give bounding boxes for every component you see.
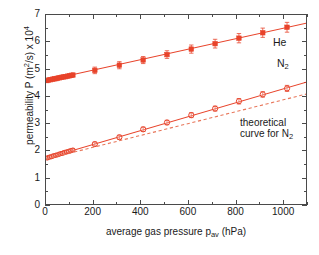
- x-axis-title: average gas pressure pav (hPa): [45, 226, 307, 237]
- x-tick-label-400: 400: [117, 207, 163, 217]
- x-axis-title-prefix: average gas pressure p: [106, 226, 211, 237]
- y-tick-label-1: 1: [0, 173, 40, 183]
- theoretical-annotation-line2: curve for N2: [240, 128, 293, 140]
- x-minor-tick-1000: [307, 202, 308, 205]
- data-point-marker: [213, 41, 218, 46]
- data-point-marker: [117, 135, 122, 140]
- y-major-tick-0: [45, 205, 50, 206]
- fit-line-he: [46, 23, 307, 81]
- series-he: [45, 22, 307, 82]
- x-axis-title-suffix: (hPa): [219, 226, 246, 237]
- data-point-marker: [141, 127, 146, 132]
- data-point-marker: [284, 86, 289, 91]
- theoretical-curve-annotation: theoretical curve for N2: [240, 117, 293, 140]
- data-point-marker: [71, 73, 75, 77]
- data-point-marker: [117, 63, 122, 68]
- y-axis-title-prefix: permeability P (m: [24, 67, 35, 145]
- theoretical-annotation-line1: theoretical: [240, 117, 293, 128]
- data-point-marker: [189, 47, 194, 52]
- data-point-marker: [236, 99, 241, 104]
- data-point-marker: [285, 25, 290, 30]
- y-axis-title: permeability P (m2/s) x 104: [24, 1, 35, 171]
- x-tick-label-0: 0: [22, 207, 68, 217]
- x-minor-tick-top-1000: [307, 14, 308, 17]
- series-label-n2-text: N: [277, 57, 285, 69]
- data-layer: [46, 15, 307, 205]
- y-axis-title-mid: /s) x 10: [24, 30, 35, 63]
- data-point-marker: [141, 58, 146, 63]
- data-point-marker: [237, 36, 242, 41]
- data-point-marker: [165, 52, 170, 57]
- series-label-n2-subscript: 2: [285, 62, 289, 71]
- series-label-he: He: [273, 36, 286, 48]
- data-point-marker: [93, 68, 98, 73]
- x-tick-label-200: 200: [70, 207, 116, 217]
- x-tick-label-600: 600: [165, 207, 211, 217]
- y-axis-title-exponent-scale: 4: [22, 26, 31, 30]
- data-point-marker: [189, 113, 194, 118]
- y-axis-title-exponent-area: 2: [22, 63, 31, 67]
- x-axis-title-subscript: av: [211, 230, 219, 239]
- x-tick-label-800: 800: [213, 207, 259, 217]
- series-label-he-text: He: [273, 36, 286, 48]
- series-label-n2: N2: [277, 57, 289, 69]
- data-point-marker: [213, 106, 218, 111]
- plot-area: [45, 14, 307, 205]
- theoretical-annotation-subscript: 2: [289, 132, 293, 141]
- y-major-tick-right-0: [302, 205, 307, 206]
- chart-figure: 76543210 02004006008001000 permeability …: [0, 0, 319, 255]
- data-point-marker: [260, 30, 265, 35]
- data-point-marker: [164, 120, 169, 125]
- theoretical-annotation-line2-text: curve for N: [240, 128, 289, 139]
- x-tick-label-1000: 1000: [260, 207, 306, 217]
- data-point-marker: [260, 92, 265, 97]
